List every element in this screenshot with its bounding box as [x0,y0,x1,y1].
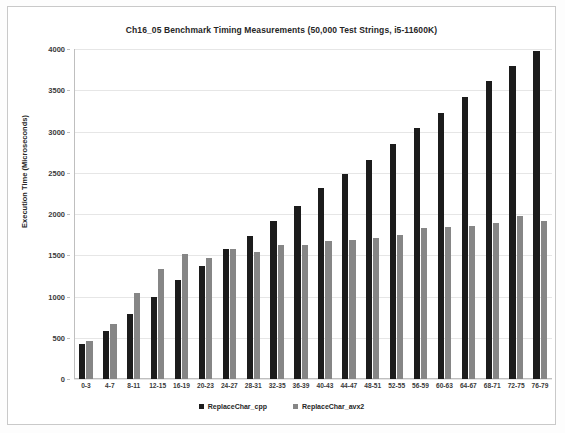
bar-0[interactable] [151,297,157,379]
bar-0[interactable] [366,160,372,379]
bar-group [127,49,140,379]
bar-1[interactable] [86,341,92,379]
bar-group [223,49,236,379]
bar-0[interactable] [414,128,420,379]
bar-group [270,49,283,379]
bar-group [247,49,260,379]
bar-0[interactable] [318,188,324,379]
y-tick-mark [67,49,70,50]
y-tick-mark [67,379,70,380]
bar-1[interactable] [182,254,188,379]
bar-1[interactable] [373,238,379,379]
bar-0[interactable] [486,81,492,379]
bar-0[interactable] [342,174,348,379]
y-tick-mark [67,214,70,215]
legend-item[interactable]: ReplaceChar_cpp [199,403,267,410]
x-tick-label: 56-59 [409,382,433,389]
bar-1[interactable] [254,252,260,379]
bar-0[interactable] [199,266,205,379]
bar-1[interactable] [110,324,116,379]
x-tick-label: 76-79 [528,382,552,389]
x-tick-label: 0-3 [74,382,98,389]
x-tick-label: 36-39 [289,382,313,389]
x-tick-label: 48-51 [361,382,385,389]
bar-1[interactable] [493,223,499,379]
bar-1[interactable] [278,245,284,379]
x-tick-label: 8-11 [122,382,146,389]
y-tick-label: 2000 [48,210,65,219]
y-tick-label: 4000 [48,45,65,54]
y-tick-label: 2500 [48,168,65,177]
bar-group [438,49,451,379]
bar-1[interactable] [421,228,427,379]
bar-1[interactable] [302,245,308,379]
x-tick-label: 32-35 [265,382,289,389]
bar-0[interactable] [103,331,109,379]
bar-0[interactable] [509,66,515,379]
bar-1[interactable] [206,258,212,379]
y-tick-mark [67,297,70,298]
legend-item[interactable]: ReplaceChar_avx2 [293,403,364,410]
y-tick-mark [67,90,70,91]
x-tick-label: 20-23 [194,382,218,389]
bar-1[interactable] [541,221,547,379]
bar-0[interactable] [462,97,468,379]
bar-1[interactable] [158,269,164,379]
bar-1[interactable] [349,240,355,379]
x-tick-label: 40-43 [313,382,337,389]
bar-group [199,49,212,379]
bar-0[interactable] [270,221,276,379]
bar-group [79,49,92,379]
bar-0[interactable] [223,249,229,379]
bar-group [509,49,522,379]
bar-0[interactable] [175,280,181,379]
bar-1[interactable] [517,216,523,379]
bar-0[interactable] [79,344,85,379]
legend-swatch-icon [199,404,204,409]
bar-1[interactable] [445,227,451,379]
y-tick-mark [67,132,70,133]
x-tick-label: 44-47 [337,382,361,389]
bar-group [414,49,427,379]
bar-series-container [74,49,552,379]
y-tick-label: 3000 [48,127,65,136]
x-tick-label: 12-15 [146,382,170,389]
gridline [74,379,552,380]
bar-0[interactable] [127,314,133,379]
bar-1[interactable] [469,226,475,379]
bar-0[interactable] [390,144,396,379]
y-tick-label: 500 [52,333,65,342]
bar-0[interactable] [533,51,539,379]
chart-legend: ReplaceChar_cppReplaceChar_avx2 [8,403,555,410]
bar-group [462,49,475,379]
y-tick-label: 3500 [48,86,65,95]
y-tick-label: 1500 [48,251,65,260]
x-tick-label: 4-7 [98,382,122,389]
x-tick-label: 60-63 [433,382,457,389]
bar-group [342,49,355,379]
x-tick-label: 72-75 [504,382,528,389]
bar-group [390,49,403,379]
bar-0[interactable] [438,113,444,379]
bar-group [486,49,499,379]
bar-1[interactable] [230,249,236,379]
chart-frame: Ch16_05 Benchmark Timing Measurements (5… [7,6,556,425]
bar-group [533,49,546,379]
x-tick-label: 16-19 [170,382,194,389]
bar-group [294,49,307,379]
bar-0[interactable] [294,206,300,379]
legend-label: ReplaceChar_cpp [208,403,267,410]
legend-swatch-icon [293,404,298,409]
y-tick-mark [67,173,70,174]
bar-group [103,49,116,379]
bar-group [175,49,188,379]
bar-0[interactable] [247,236,253,379]
y-tick-mark [67,338,70,339]
bar-1[interactable] [397,235,403,379]
bar-1[interactable] [134,293,140,379]
chart-title: Ch16_05 Benchmark Timing Measurements (5… [8,25,555,35]
x-axis-tick-labels: 0-34-78-1112-1516-1920-2324-2728-3132-35… [74,382,552,396]
bar-1[interactable] [325,241,331,379]
x-tick-label: 52-55 [385,382,409,389]
y-tick-label: 1000 [48,292,65,301]
